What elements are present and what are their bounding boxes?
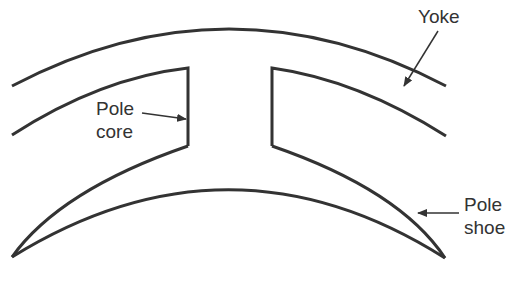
yoke-outer-arc bbox=[12, 29, 446, 86]
pole-core-arrow bbox=[142, 113, 186, 119]
pole-shoe-label-line1: Pole bbox=[464, 194, 502, 215]
yoke-inner-arc-right bbox=[272, 68, 446, 146]
yoke-label: Yoke bbox=[418, 6, 460, 27]
pole-core-label-line2: core bbox=[96, 121, 133, 142]
pole-shoe-face-arc bbox=[12, 190, 445, 258]
pole-shoe-label-line2: shoe bbox=[464, 217, 505, 238]
pole-diagram bbox=[0, 0, 510, 281]
pole-core-label-line1: Pole bbox=[96, 98, 134, 119]
